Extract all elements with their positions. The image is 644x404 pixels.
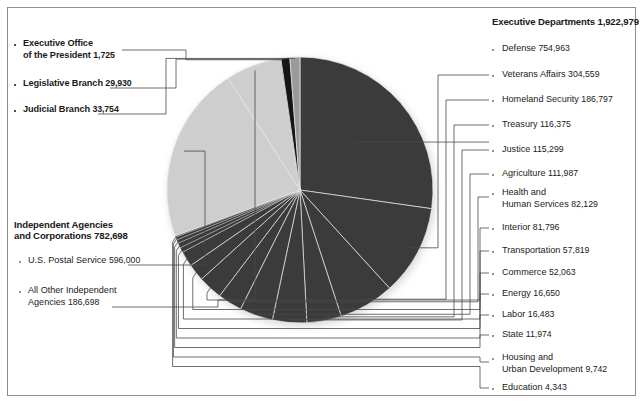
legend-name: Education <box>502 382 542 392</box>
label-legislative-branch-text: Legislative Branch <box>23 78 103 88</box>
heading-independent-agencies: Independent Agencies and Corporations 78… <box>14 219 128 242</box>
legend-item-energy: Energy 16,650 <box>502 288 560 299</box>
legend-value: 4,343 <box>545 382 567 392</box>
heading-independent-agencies-line2: and Corporations <box>14 230 92 241</box>
legend-value: 52,063 <box>549 267 576 277</box>
legend-item-homeland-security: Homeland Security 186,797 <box>502 94 613 105</box>
legend-name: Commerce <box>502 267 546 277</box>
legend-item-agriculture: Agriculture 111,987 <box>502 168 578 179</box>
pie-figure: Executive Office of the President 1,725 … <box>0 0 644 404</box>
value-legislative-branch: 29,930 <box>105 78 131 88</box>
label-judicial-branch: Judicial Branch 33,754 <box>23 104 119 115</box>
legend-name-2: Urban Development <box>502 364 583 374</box>
legend-value: 111,987 <box>548 168 578 178</box>
legend-item-education: Education 4,343 <box>502 382 567 393</box>
label-other-independent-agencies-line1: All Other Independent <box>28 285 116 295</box>
heading-executive-departments-value: 1,922,979 <box>597 16 638 27</box>
legend-value: 116,375 <box>540 119 571 129</box>
legend-item-treasury: Treasury 116,375 <box>502 119 571 130</box>
legend-item-defense: Defense 754,963 <box>502 43 570 54</box>
legend-value: 16,650 <box>533 288 560 298</box>
legend-value: 754,963 <box>538 43 569 53</box>
legend-item-labor: Labor 16,483 <box>502 309 554 320</box>
value-judicial-branch: 33,754 <box>92 104 118 114</box>
legend-item-health-and: Health andHuman Services 82,129 <box>502 187 598 210</box>
legend-name: State <box>502 329 523 339</box>
legend-name: Interior <box>502 222 530 232</box>
legend-value: 57,819 <box>563 245 590 255</box>
label-executive-office-line2: of the President <box>23 50 91 60</box>
legend-value: 9,742 <box>585 364 607 374</box>
legend-name: Health and <box>502 187 546 197</box>
legend-value: 81,796 <box>533 222 560 232</box>
legend-name: Defense <box>502 43 536 53</box>
heading-independent-agencies-value: 782,698 <box>94 230 128 241</box>
label-judicial-branch-text: Judicial Branch <box>23 104 90 114</box>
legend-name: Veterans Affairs <box>502 69 566 79</box>
heading-executive-departments-text: Executive Departments <box>492 16 595 27</box>
legend-item-commerce: Commerce 52,063 <box>502 267 576 278</box>
legend-value: 186,797 <box>581 94 612 104</box>
label-executive-office: Executive Office of the President 1,725 <box>23 38 115 62</box>
legend-name: Justice <box>502 144 530 154</box>
legend-name: Labor <box>502 309 525 319</box>
label-postal-service-text: U.S. Postal Service <box>28 255 106 265</box>
legend-name-2: Human Services <box>502 199 569 209</box>
legend-name: Treasury <box>502 119 538 129</box>
legend-item-transportation: Transportation 57,819 <box>502 245 589 256</box>
pie-slice-defense <box>300 57 433 209</box>
label-other-independent-agencies: All Other Independent Agencies 186,698 <box>28 285 116 308</box>
legend-item-housing-and: Housing andUrban Development 9,742 <box>502 352 607 375</box>
label-executive-office-line1: Executive Office <box>23 38 93 48</box>
value-executive-office: 1,725 <box>93 50 115 60</box>
legend-name: Transportation <box>502 245 560 255</box>
label-postal-service: U.S. Postal Service 596,000 <box>28 255 140 266</box>
legend-value: 115,299 <box>533 144 564 154</box>
pie-slices <box>167 57 433 323</box>
heading-executive-departments: Executive Departments 1,922,979 <box>492 16 639 27</box>
legend-value: 304,559 <box>568 69 599 79</box>
legend-item-justice: Justice 115,299 <box>502 144 564 155</box>
legend-value: 11,974 <box>526 329 552 339</box>
heading-independent-agencies-line1: Independent Agencies <box>14 219 113 230</box>
label-legislative-branch: Legislative Branch 29,930 <box>23 78 132 89</box>
legend-item-veterans-affairs: Veterans Affairs 304,559 <box>502 69 599 80</box>
value-other-independent-agencies: 186,698 <box>68 297 99 307</box>
legend-name: Homeland Security <box>502 94 579 104</box>
legend-value: 82,129 <box>571 199 598 209</box>
legend-item-state: State 11,974 <box>502 329 552 340</box>
legend-name: Agriculture <box>502 168 545 178</box>
legend-name: Housing and <box>502 352 553 362</box>
label-other-independent-agencies-line2: Agencies <box>28 297 65 307</box>
value-postal-service: 596,000 <box>109 255 140 265</box>
legend-value: 16,483 <box>528 309 555 319</box>
legend-name: Energy <box>502 288 531 298</box>
legend-item-interior: Interior 81,796 <box>502 222 559 233</box>
